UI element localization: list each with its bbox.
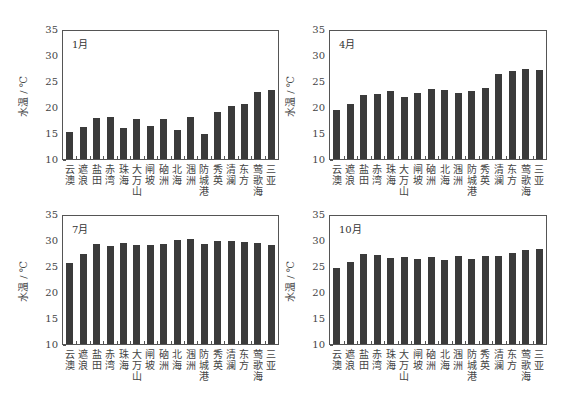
plot-area: 7月 (62, 215, 279, 345)
x-tick (452, 341, 453, 344)
x-category-label: 硇洲 (425, 164, 437, 186)
x-category-label: 赤湾 (371, 349, 383, 371)
y-tick-label: 15 (38, 314, 58, 324)
x-category-label: 秀英 (212, 164, 224, 186)
y-tick-label: 25 (305, 262, 325, 272)
x-tick (224, 156, 225, 159)
x-category-label: 东方 (238, 164, 250, 186)
x-tick (465, 156, 466, 159)
x-category-label: 北海 (439, 164, 451, 186)
bar (441, 260, 448, 344)
x-tick (519, 156, 520, 159)
x-category-label: 遮浪 (344, 349, 356, 371)
bar (414, 259, 421, 344)
x-category-label: 莺歌海 (520, 164, 532, 197)
bar (360, 254, 367, 344)
bar (228, 241, 235, 344)
bar (133, 119, 140, 159)
x-tick (371, 341, 372, 344)
bar (347, 104, 354, 159)
y-tick-label: 20 (38, 288, 58, 298)
x-category-label: 闸坡 (144, 164, 156, 186)
y-tick (330, 345, 333, 346)
x-category-label: 防城港 (198, 164, 210, 197)
bar (374, 255, 381, 344)
bar (468, 91, 475, 159)
x-tick (117, 341, 118, 344)
x-category-label: 秀英 (212, 349, 224, 371)
x-tick (425, 156, 426, 159)
x-tick (76, 156, 77, 159)
y-axis-label: 水温 / ℃ (282, 252, 297, 312)
x-tick (519, 341, 520, 344)
bar (333, 110, 340, 159)
x-tick (425, 341, 426, 344)
bar (93, 118, 100, 159)
y-tick-label: 25 (38, 262, 58, 272)
x-tick (211, 156, 212, 159)
bar (66, 263, 73, 344)
x-tick (144, 156, 145, 159)
bar (254, 92, 261, 159)
x-tick (344, 341, 345, 344)
x-category-label: 涠洲 (185, 164, 197, 186)
x-category-label: 云澳 (331, 164, 343, 186)
bar (455, 256, 462, 344)
bar (401, 97, 408, 159)
bar (268, 245, 275, 344)
x-tick (465, 341, 466, 344)
bar (80, 127, 87, 159)
x-tick (90, 156, 91, 159)
y-axis-label: 水温 / ℃ (15, 252, 30, 312)
x-tick (197, 341, 198, 344)
x-category-label: 云澳 (64, 164, 76, 186)
bar (333, 268, 340, 344)
month-label: 7月 (72, 221, 88, 236)
x-category-label: 清澜 (225, 164, 237, 186)
x-category-label: 三亚 (265, 349, 277, 371)
bar (201, 134, 208, 160)
x-tick (157, 341, 158, 344)
bar (401, 257, 408, 344)
x-category-label: 秀英 (479, 164, 491, 186)
x-tick (452, 156, 453, 159)
bar (133, 245, 140, 344)
x-tick (506, 341, 507, 344)
x-tick (398, 156, 399, 159)
y-tick-label: 25 (305, 77, 325, 87)
x-category-label: 清澜 (493, 349, 505, 371)
bar (347, 262, 354, 344)
x-category-label: 硇洲 (158, 349, 170, 371)
y-tick-label: 35 (38, 210, 58, 220)
x-category-label: 防城港 (466, 349, 478, 382)
bar (254, 243, 261, 344)
y-tick-label: 30 (38, 51, 58, 61)
y-tick-label: 15 (38, 129, 58, 139)
x-category-label: 云澳 (64, 349, 76, 371)
x-category-label: 闸坡 (144, 349, 156, 371)
bar (536, 249, 543, 344)
bar (147, 245, 154, 344)
y-tick-label: 10 (305, 340, 325, 350)
y-tick-label: 35 (305, 210, 325, 220)
plot-area: 4月 (329, 30, 547, 160)
x-tick (224, 341, 225, 344)
x-category-label: 盐田 (91, 349, 103, 371)
x-tick (130, 341, 131, 344)
x-tick (238, 156, 239, 159)
y-tick-label: 10 (38, 340, 58, 350)
x-tick (278, 156, 279, 159)
y-tick-label: 20 (305, 103, 325, 113)
bar (160, 244, 167, 344)
x-tick (144, 341, 145, 344)
x-category-label: 盐田 (358, 164, 370, 186)
bar (509, 253, 516, 344)
x-tick (265, 156, 266, 159)
x-tick (197, 156, 198, 159)
x-category-label: 闸坡 (412, 164, 424, 186)
x-tick (546, 341, 547, 344)
x-category-label: 涠洲 (185, 349, 197, 371)
bar (455, 93, 462, 159)
x-category-label: 涠洲 (452, 164, 464, 186)
x-tick (278, 341, 279, 344)
